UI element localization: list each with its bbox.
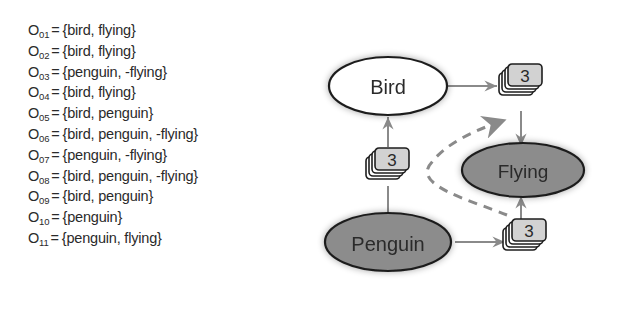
node-flying-label: Flying [498, 161, 549, 182]
bayesian-diagram: Bird Flying Penguin 3 3 3 [0, 0, 619, 318]
card-stack-bird-flying: 3 [499, 64, 542, 95]
card-stack-penguin-bird: 3 [366, 148, 409, 179]
node-flying: Flying [462, 143, 584, 197]
card-stack-count: 3 [387, 151, 396, 170]
card-stack-count: 3 [520, 67, 529, 86]
card-stack-penguin-flying: 3 [503, 219, 546, 250]
node-penguin: Penguin [325, 213, 451, 271]
card-stack-count: 3 [524, 222, 533, 241]
node-bird: Bird [329, 57, 447, 115]
node-penguin-label: Penguin [351, 233, 424, 255]
node-bird-label: Bird [370, 76, 406, 98]
